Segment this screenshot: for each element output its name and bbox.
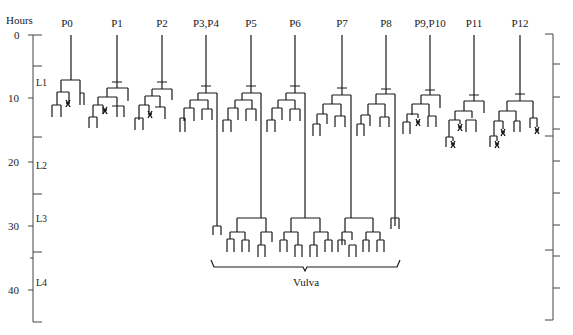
lineage-label-p0: P0	[61, 17, 73, 29]
stage-label-l3: L3	[36, 213, 47, 224]
stage-label-l1: L1	[36, 77, 47, 88]
lineage-label-p6: P6	[289, 17, 301, 29]
lineage-label-p5: P5	[245, 17, 257, 29]
vulva-label: Vulva	[293, 276, 319, 288]
vulva-bracket: Vulva	[211, 260, 400, 288]
lineage-tree-p2	[135, 35, 172, 130]
lineage-label-p8: P8	[380, 17, 392, 29]
lineage-tree-p1	[89, 35, 128, 128]
axis-title: Hours	[6, 14, 33, 26]
tick-label-40: 40	[8, 284, 20, 296]
lineage-label-p3-p4: P3,P4	[193, 17, 219, 29]
lineage-tree-p3-p4	[180, 35, 221, 235]
lineage-label-p7: P7	[336, 17, 348, 29]
lineage-label-p1: P1	[111, 17, 123, 29]
lineage-tree-p11	[446, 35, 484, 148]
stage-label-l4: L4	[36, 277, 47, 288]
lineage-diagram: Hours 0 10 20 30 40 L1 L2 L3 L4	[0, 0, 573, 335]
lineage-label-p11: P11	[466, 17, 483, 29]
right-time-axis	[545, 34, 560, 320]
lineage-tree-p0	[52, 35, 84, 117]
lineage-tree-p5	[223, 35, 261, 218]
tick-label-30: 30	[8, 220, 20, 232]
lineage-tree-p9-p10	[403, 35, 440, 134]
lineage-tree-p8	[357, 35, 399, 229]
lineage-tree-p6	[267, 35, 305, 218]
tick-label-0: 0	[14, 29, 20, 41]
lineage-label-p9-p10: P9,P10	[414, 17, 446, 29]
lineage-tree-p12	[490, 35, 539, 148]
tick-label-10: 10	[8, 92, 20, 104]
tick-label-20: 20	[8, 156, 20, 168]
vulval-lineages	[227, 218, 384, 257]
lineage-label-p12: P12	[511, 17, 528, 29]
lineage-labels: P0 P1 P2 P3,P4 P5 P6 P7 P8 P9,P10 P11 P1…	[61, 17, 528, 29]
lineage-tree-p7	[313, 35, 351, 218]
stage-label-l2: L2	[36, 160, 47, 171]
lineage-label-p2: P2	[156, 17, 168, 29]
left-time-axis: Hours 0 10 20 30 40 L1 L2 L3 L4	[6, 14, 47, 322]
